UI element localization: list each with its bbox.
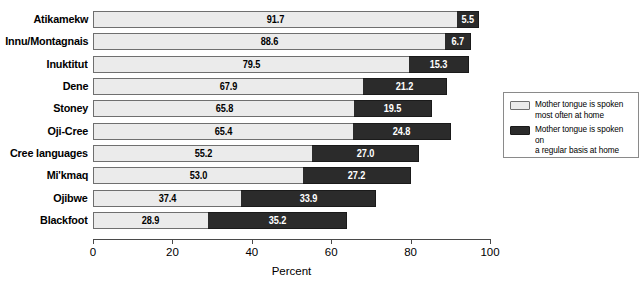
bar-value-label: 88.6 [261,36,279,47]
bar-segment-regular-basis[interactable]: 19.5 [354,100,431,117]
bar-value-label: 53.0 [190,170,208,181]
bar-value-label: 28.9 [142,215,160,226]
bar-row[interactable]: 79.515.3 [93,56,469,73]
bar-row[interactable]: 65.819.5 [93,100,432,117]
bar-value-label: 65.4 [215,126,233,137]
bar-segment-regular-basis[interactable]: 27.2 [303,167,411,184]
bar-row[interactable]: 88.66.7 [93,33,471,50]
x-axis-tick-label: 0 [90,246,96,258]
bar-value-label: 24.8 [393,126,411,137]
bar-segment-most-often[interactable]: 67.9 [93,78,363,95]
bar-segment-most-often[interactable]: 79.5 [93,56,409,73]
bar-value-label: 79.5 [243,59,261,70]
plot-area: 91.75.588.66.779.515.367.921.265.819.565… [93,11,490,235]
bar-segment-most-often[interactable]: 37.4 [93,190,241,207]
legend-label: Mother tongue is spoken most often at ho… [535,99,623,120]
bar-segment-regular-basis[interactable]: 24.8 [353,123,451,140]
bar-segment-most-often[interactable]: 91.7 [93,11,457,28]
category-label: Cree languages [10,145,88,162]
category-label: Atikamekw [33,11,88,28]
legend-label-line2: most often at home [535,110,604,120]
category-label: Innu/Montagnais [5,33,88,50]
x-axis-tick [93,239,94,244]
bar-value-label: 6.7 [451,36,464,47]
bar-value-label: 21.2 [395,81,413,92]
x-axis-tick [331,239,332,244]
legend-label-line1: Mother tongue is spoken [535,99,623,109]
x-axis-tick [252,239,253,244]
bar-value-label: 27.0 [356,148,374,159]
bar-segment-regular-basis[interactable]: 35.2 [208,212,348,229]
bar-row[interactable]: 67.921.2 [93,78,447,95]
category-label: Oji-Cree [47,123,88,140]
bar-segment-most-often[interactable]: 88.6 [93,33,445,50]
bar-value-label: 37.4 [159,193,177,204]
bar-value-label: 67.9 [219,81,237,92]
category-label: Mi'kmaq [46,167,88,184]
bar-segment-regular-basis[interactable]: 27.0 [312,145,419,162]
legend-swatch-dark-icon [510,126,530,135]
bar-value-label: 5.5 [461,14,474,25]
legend-label: Mother tongue is spoken on a regular bas… [535,124,629,156]
x-axis-tick-label: 80 [404,246,417,258]
bar-value-label: 91.7 [267,14,285,25]
bar-segment-most-often[interactable]: 65.4 [93,123,353,140]
bar-value-label: 55.2 [194,148,212,159]
bar-segment-most-often[interactable]: 65.8 [93,100,354,117]
legend-label-line1: Mother tongue is spoken on [535,124,623,145]
bar-segment-most-often[interactable]: 55.2 [93,145,312,162]
category-label: Dene [62,78,88,95]
bar-segment-most-often[interactable]: 28.9 [93,212,208,229]
x-axis-tick [411,239,412,244]
category-label: Inuktitut [47,56,88,73]
bar-segment-regular-basis[interactable]: 6.7 [445,33,472,50]
category-label: Ojibwe [54,190,88,207]
x-axis-tick [490,239,491,244]
bar-value-label: 15.3 [430,59,448,70]
category-label: Stoney [53,100,88,117]
legend-label-line2: a regular basis at home [535,145,619,155]
bar-value-label: 65.8 [215,103,233,114]
category-label: Blackfoot [40,212,88,229]
stacked-bar-chart: AtikamekwInnu/MontagnaisInuktitutDeneSto… [0,0,642,289]
bar-segment-regular-basis[interactable]: 21.2 [363,78,447,95]
x-axis-title: Percent [93,265,490,277]
bar-row[interactable]: 37.433.9 [93,190,376,207]
x-axis-tick-label: 60 [325,246,338,258]
bar-row[interactable]: 53.027.2 [93,167,411,184]
bar-row[interactable]: 91.75.5 [93,11,479,28]
bar-value-label: 33.9 [299,193,317,204]
bar-value-label: 19.5 [384,103,402,114]
bar-row[interactable]: 55.227.0 [93,145,419,162]
x-axis-tick-label: 100 [480,246,499,258]
x-axis-tick [172,239,173,244]
bar-value-label: 35.2 [268,215,286,226]
legend-item[interactable]: Mother tongue is spoken most often at ho… [510,99,633,120]
x-axis-tick-label: 40 [245,246,258,258]
x-axis-tick-label: 20 [166,246,179,258]
bar-row[interactable]: 65.424.8 [93,123,451,140]
legend-swatch-light-icon [510,101,530,110]
chart-legend: Mother tongue is spoken most often at ho… [503,92,639,158]
bar-segment-most-often[interactable]: 53.0 [93,167,303,184]
bar-value-label: 27.2 [348,170,366,181]
bar-segment-regular-basis[interactable]: 33.9 [241,190,376,207]
x-axis-line [93,239,491,240]
bar-segment-regular-basis[interactable]: 5.5 [457,11,479,28]
legend-item[interactable]: Mother tongue is spoken on a regular bas… [510,124,633,156]
bar-row[interactable]: 28.935.2 [93,212,347,229]
bar-segment-regular-basis[interactable]: 15.3 [409,56,470,73]
